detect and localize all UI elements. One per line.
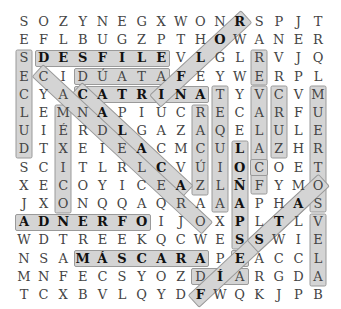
letter-cell[interactable]: S [14, 159, 34, 177]
letter-cell[interactable]: C [269, 250, 289, 268]
letter-cell[interactable]: A [230, 268, 250, 286]
letter-cell[interactable]: V [171, 49, 191, 67]
letter-cell[interactable]: U [308, 104, 328, 122]
letter-cell[interactable]: H [190, 31, 210, 49]
letter-cell[interactable]: E [151, 49, 171, 67]
letter-cell[interactable]: G [269, 268, 289, 286]
letter-cell[interactable]: É [53, 122, 73, 140]
letter-cell[interactable]: L [249, 213, 269, 231]
letter-cell[interactable]: E [308, 122, 328, 140]
letter-cell[interactable]: X [151, 13, 171, 31]
letter-cell[interactable]: Y [73, 13, 93, 31]
letter-cell[interactable]: A [249, 250, 269, 268]
letter-cell[interactable]: P [288, 286, 308, 304]
letter-cell[interactable]: M [14, 268, 34, 286]
letter-cell[interactable]: Y [210, 68, 230, 86]
letter-cell[interactable]: S [14, 49, 34, 67]
letter-cell[interactable]: Q [151, 231, 171, 249]
letter-cell[interactable]: N [14, 250, 34, 268]
letter-cell[interactable]: Z [171, 268, 191, 286]
letter-cell[interactable]: A [288, 195, 308, 213]
letter-cell[interactable]: W [230, 68, 250, 86]
letter-cell[interactable]: Q [151, 195, 171, 213]
letter-cell[interactable]: R [73, 231, 93, 249]
letter-cell[interactable]: T [171, 31, 191, 49]
letter-cell[interactable]: F [34, 31, 54, 49]
letter-cell[interactable]: L [308, 68, 328, 86]
letter-cell[interactable]: H [269, 195, 289, 213]
letter-cell[interactable]: I [34, 122, 54, 140]
letter-cell[interactable]: L [230, 49, 250, 67]
letter-cell[interactable]: I [112, 49, 132, 67]
letter-cell[interactable]: O [210, 31, 230, 49]
letter-cell[interactable]: R [132, 86, 152, 104]
letter-cell[interactable]: M [53, 104, 73, 122]
letter-cell[interactable]: F [171, 68, 191, 86]
letter-cell[interactable]: P [112, 104, 132, 122]
letter-cell[interactable]: E [112, 140, 132, 158]
letter-cell[interactable]: C [151, 140, 171, 158]
letter-cell[interactable]: O [190, 213, 210, 231]
letter-cell[interactable]: C [92, 268, 112, 286]
letter-cell[interactable]: F [53, 268, 73, 286]
letter-cell[interactable]: E [308, 231, 328, 249]
letter-cell[interactable]: N [171, 86, 191, 104]
letter-cell[interactable]: U [151, 104, 171, 122]
letter-cell[interactable]: A [112, 68, 132, 86]
letter-cell[interactable]: V [249, 86, 269, 104]
letter-cell[interactable]: C [34, 286, 54, 304]
letter-cell[interactable]: R [308, 31, 328, 49]
letter-cell[interactable]: Q [92, 195, 112, 213]
letter-cell[interactable]: R [112, 159, 132, 177]
letter-cell[interactable]: R [269, 68, 289, 86]
letter-cell[interactable]: A [132, 195, 152, 213]
letter-cell[interactable]: F [112, 213, 132, 231]
letter-cell[interactable]: A [53, 86, 73, 104]
letter-cell[interactable]: C [288, 250, 308, 268]
letter-cell[interactable]: E [249, 68, 269, 86]
letter-cell[interactable]: R [171, 250, 191, 268]
letter-cell[interactable]: L [112, 122, 132, 140]
letter-cell[interactable]: E [210, 104, 230, 122]
letter-cell[interactable]: F [190, 286, 210, 304]
letter-cell[interactable]: S [249, 13, 269, 31]
letter-cell[interactable]: O [34, 13, 54, 31]
letter-cell[interactable]: C [171, 104, 191, 122]
letter-cell[interactable]: I [112, 177, 132, 195]
letter-cell[interactable]: T [112, 86, 132, 104]
letter-cell[interactable]: L [132, 49, 152, 67]
letter-cell[interactable]: X [53, 140, 73, 158]
letter-cell[interactable]: E [14, 31, 34, 49]
letter-cell[interactable]: L [288, 213, 308, 231]
letter-cell[interactable]: Ú [190, 159, 210, 177]
letter-cell[interactable]: B [308, 286, 328, 304]
letter-cell[interactable]: D [288, 268, 308, 286]
letter-cell[interactable]: C [230, 104, 250, 122]
letter-cell[interactable]: C [249, 159, 269, 177]
letter-cell[interactable]: R [73, 122, 93, 140]
letter-cell[interactable]: A [171, 177, 191, 195]
letter-cell[interactable]: T [34, 140, 54, 158]
letter-cell[interactable]: M [73, 250, 93, 268]
letter-cell[interactable]: P [269, 13, 289, 31]
letter-cell[interactable]: L [92, 159, 112, 177]
letter-cell[interactable]: C [14, 86, 34, 104]
letter-cell[interactable]: R [190, 104, 210, 122]
letter-cell[interactable]: O [151, 268, 171, 286]
letter-cell[interactable]: Z [269, 140, 289, 158]
letter-cell[interactable]: R [308, 140, 328, 158]
letter-cell[interactable]: M [288, 177, 308, 195]
letter-cell[interactable]: C [34, 68, 54, 86]
letter-cell[interactable]: A [308, 268, 328, 286]
letter-cell[interactable]: X [34, 195, 54, 213]
letter-cell[interactable]: D [190, 268, 210, 286]
letter-cell[interactable]: C [34, 159, 54, 177]
letter-cell[interactable]: Z [132, 31, 152, 49]
letter-cell[interactable]: Y [34, 86, 54, 104]
letter-cell[interactable]: A [151, 68, 171, 86]
letter-cell[interactable]: E [73, 268, 93, 286]
letter-cell[interactable]: Y [230, 86, 250, 104]
letter-cell[interactable]: I [132, 104, 152, 122]
letter-cell[interactable]: O [132, 213, 152, 231]
letter-cell[interactable]: J [171, 213, 191, 231]
